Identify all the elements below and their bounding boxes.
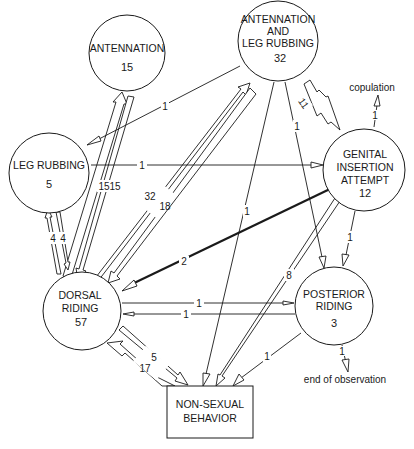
node-label-line-1: GENITAL bbox=[343, 148, 387, 160]
node-label-line-3: LEG RUBBING bbox=[242, 37, 314, 49]
edge-label-genital-insertion-to-copulation: 1 bbox=[372, 110, 378, 121]
edge-label-dorsal-to-leg-rubbing: 4 bbox=[50, 233, 56, 244]
node-antennation: ANTENNATION 15 bbox=[89, 15, 165, 91]
edge-label-antennation-leg-rubbing-to-dorsal: 18 bbox=[159, 201, 171, 212]
node-label: LEG RUBBING bbox=[13, 159, 85, 171]
node-posterior-riding: POSTERIOR RIDING 3 bbox=[295, 267, 373, 345]
node-count: 12 bbox=[359, 187, 371, 199]
node-label-line-2: AND bbox=[267, 25, 290, 37]
edge-label-dorsal-to-antennation-leg-rubbing: 32 bbox=[144, 191, 156, 202]
behavior-transition-diagram: 15 15 32 18 4 4 1 1 11 2 bbox=[0, 0, 414, 449]
edge-label-dorsal-to-posterior: 1 bbox=[196, 298, 202, 309]
node-count: 32 bbox=[274, 52, 286, 64]
node-label-line-2: RIDING bbox=[62, 302, 99, 314]
node-label-line-1: DORSAL bbox=[58, 289, 101, 301]
edge-label-antennation-leg-rubbing-to-genital-insertion: 11 bbox=[296, 96, 311, 111]
edge-label-dorsal-to-non-sexual: 5 bbox=[151, 352, 157, 363]
edge-label-genital-insertion-to-non-sexual: 8 bbox=[286, 270, 292, 281]
node-count: 15 bbox=[121, 61, 133, 73]
node-label-line-2: BEHAVIOR bbox=[183, 412, 237, 424]
edge-label-antennation-leg-rubbing-to-posterior: 1 bbox=[294, 121, 300, 132]
edge-label-posterior-to-end-of-observation: 1 bbox=[339, 346, 345, 357]
edge-posterior-to-dorsal bbox=[123, 312, 295, 316]
node-label: ANTENNATION bbox=[90, 42, 164, 54]
edge-label-genital-insertion-to-posterior: 1 bbox=[347, 232, 353, 243]
edge-label-dorsal-to-antennation: 15 bbox=[98, 181, 110, 192]
node-label-line-1: NON-SEXUAL bbox=[176, 398, 244, 410]
node-leg-rubbing: LEG RUBBING 5 bbox=[9, 133, 89, 213]
node-antennation-and-leg-rubbing: ANTENNATION AND LEG RUBBING 32 bbox=[238, 1, 318, 81]
node-count: 3 bbox=[331, 317, 337, 329]
edge-label-posterior-to-non-sexual: 1 bbox=[264, 351, 270, 362]
edge-label-genital-insertion-to-dorsal: 2 bbox=[181, 256, 187, 267]
node-non-sexual-behavior: NON-SEXUAL BEHAVIOR bbox=[167, 386, 253, 438]
edge-label-leg-rubbing-to-genital-insertion: 1 bbox=[139, 160, 145, 171]
node-label-line-1: POSTERIOR bbox=[303, 288, 365, 300]
outcome-copulation: copulation bbox=[349, 82, 395, 93]
edge-label-leg-rubbing-to-dorsal: 4 bbox=[60, 233, 66, 244]
node-label-line-1: ANTENNATION bbox=[241, 13, 315, 25]
node-genital-insertion-attempt: GENITAL INSERTION ATTEMPT 12 bbox=[323, 129, 405, 211]
edge-label-antennation-leg-rubbing-to-leg-rubbing: 1 bbox=[162, 101, 168, 112]
outcome-end-of-observation: end of observation bbox=[304, 374, 386, 385]
edge-leg-rubbing-to-genital-insertion bbox=[91, 162, 323, 168]
edge-label-non-sexual-to-dorsal: 17 bbox=[139, 363, 151, 374]
node-label-line-2: RIDING bbox=[316, 300, 353, 312]
edge-label-antennation-leg-rubbing-to-non-sexual: 1 bbox=[244, 206, 250, 217]
node-label-line-3: ATTEMPT bbox=[341, 174, 390, 186]
node-label-line-2: INSERTION bbox=[337, 161, 394, 173]
edge-label-antennation-to-dorsal: 15 bbox=[109, 181, 121, 192]
node-dorsal-riding: DORSAL RIDING 57 bbox=[43, 272, 121, 350]
node-count: 57 bbox=[75, 316, 87, 328]
node-count: 5 bbox=[46, 178, 52, 190]
edge-label-posterior-to-dorsal: 1 bbox=[183, 309, 189, 320]
